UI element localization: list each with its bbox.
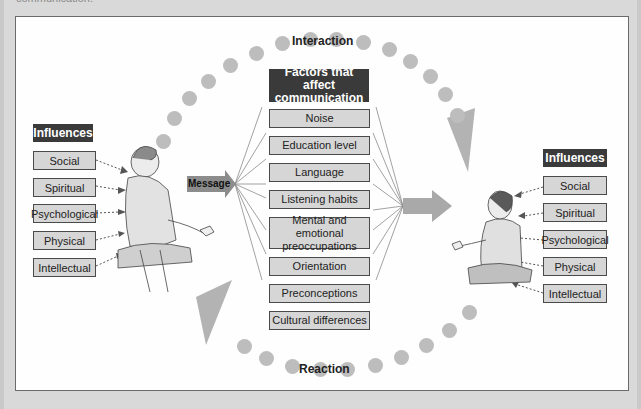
cycle-dot: [450, 108, 465, 123]
cycle-dot: [237, 339, 252, 354]
cycle-dot: [223, 58, 238, 73]
cycle-dot: [419, 338, 434, 353]
left-person-figure: [118, 146, 214, 292]
cycle-dot: [368, 358, 383, 373]
cycle-dot: [394, 350, 409, 365]
left-influences-title: Influences: [33, 124, 93, 142]
interaction-label: Interaction: [292, 34, 353, 48]
factor-item: Cultural differences: [269, 311, 370, 330]
cycle-dot: [275, 36, 290, 51]
factors-title: Factors that affect communication: [269, 69, 369, 102]
left-influence-item: Intellectual: [33, 258, 96, 277]
cycle-dot: [167, 111, 182, 126]
reaction-label: Reaction: [299, 362, 350, 376]
right-influence-item: Psychological: [543, 230, 607, 249]
output-arrow-icon: [403, 190, 452, 222]
cycle-dot: [382, 42, 397, 57]
cycle-dot: [438, 87, 453, 102]
right-influence-item: Intellectual: [543, 284, 607, 303]
left-influence-item: Psychological: [33, 204, 96, 223]
cycle-dot: [403, 54, 418, 69]
cycle-dot: [285, 359, 300, 374]
left-influence-item: Social: [33, 151, 96, 170]
right-influences-title: Influences: [543, 149, 607, 167]
cycle-dot: [156, 134, 171, 149]
right-influence-item: Social: [543, 176, 607, 195]
left-influence-item: Spiritual: [33, 178, 96, 197]
factor-item: Language: [269, 163, 370, 182]
factor-item: Education level: [269, 136, 370, 155]
cycle-dot: [182, 91, 197, 106]
factor-item: Preconceptions: [269, 284, 370, 303]
cycle-dot: [259, 351, 274, 366]
message-label: Message: [188, 177, 228, 191]
right-person-figure: [452, 191, 532, 284]
factor-item: Listening habits: [269, 190, 370, 209]
right-influence-item: Physical: [543, 257, 607, 276]
cycle-dot: [249, 46, 264, 61]
cycle-dot: [356, 35, 371, 50]
factor-item: Mental and emotional preoccupations: [269, 217, 370, 249]
factor-item: Noise: [269, 109, 370, 128]
cycle-dot: [442, 323, 457, 338]
factor-item: Orientation: [269, 257, 370, 276]
reaction-arrowhead-icon: [196, 280, 232, 345]
left-influence-item: Physical: [33, 231, 96, 250]
cycle-dot: [423, 69, 438, 84]
cycle-dot: [462, 305, 477, 320]
right-influence-item: Spiritual: [543, 203, 607, 222]
cycle-dot: [201, 74, 216, 89]
